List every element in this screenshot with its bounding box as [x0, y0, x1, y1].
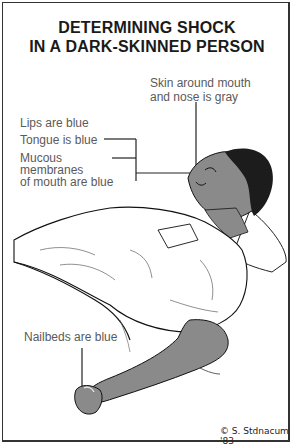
hand [75, 386, 102, 415]
artist-signature: © S. Stdnacum '83 [220, 426, 294, 446]
label-mucous-line-3: of mouth are blue [20, 175, 113, 189]
label-skin-line-1: Skin around mouth [150, 76, 251, 90]
label-lips: Lips are blue [20, 116, 89, 130]
shirt [14, 207, 247, 332]
label-nailbeds: Nailbeds are blue [24, 330, 117, 344]
patient-illustration [0, 0, 294, 447]
label-tongue: Tongue is blue [20, 133, 97, 147]
label-skin-line-2: and nose is gray [150, 90, 238, 104]
